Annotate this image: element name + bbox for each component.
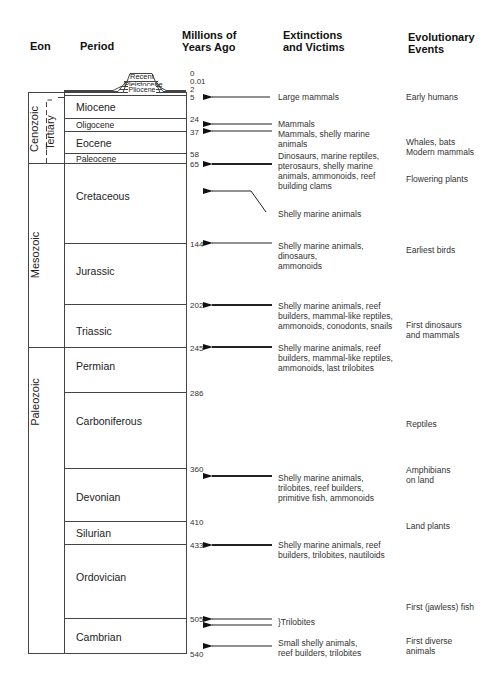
event-whales-bats: Whales, bats Modern mammals: [406, 137, 474, 157]
tick-202: 202: [190, 301, 203, 310]
tick-58: 58: [190, 150, 199, 159]
extinction-245: Shelly marine animals, reef builders, ma…: [278, 343, 393, 373]
event-amphibians: Amphibians on land: [406, 465, 450, 485]
event-first-fish: First (jawless) fish: [406, 602, 474, 612]
tick-286: 286: [190, 389, 203, 398]
eon-paleozoic: Paleozoic: [29, 374, 43, 430]
extinction-360: Shelly marine animals, trilobites, reef …: [278, 473, 374, 503]
period-jurassic: Jurassic: [76, 265, 115, 277]
period-carboniferous: Carboniferous: [76, 415, 142, 427]
period-devonian: Devonian: [76, 491, 120, 503]
sub-eon-tertiary: Tertiary: [44, 111, 57, 155]
period-cretaceous: Cretaceous: [76, 190, 130, 202]
extinction-505-trilobites: }Trilobites: [278, 617, 315, 627]
event-first-diverse-animals: First diverse animals: [406, 636, 452, 656]
extinction-kt: Dinosaurs, marine reptiles, pterosaurs, …: [278, 151, 379, 191]
event-reptiles: Reptiles: [406, 419, 437, 429]
period-ordovician: Ordovician: [76, 571, 126, 583]
tick-245: 245: [190, 344, 203, 353]
eon-cenozoic: Cenozoic: [28, 104, 42, 154]
tick-540: 540: [190, 650, 203, 659]
extinction-433: Shelly marine animals, reef builders, tr…: [278, 540, 385, 560]
tick-65: 65: [190, 160, 199, 169]
extinction-mammals-24: Mammals: [278, 119, 315, 129]
period-paleocene: Paleocene: [76, 154, 116, 164]
event-first-dinosaurs: First dinosaurs and mammals: [406, 320, 462, 340]
period-triassic: Triassic: [76, 325, 112, 337]
extinction-202: Shelly marine animals, reef builders, ma…: [278, 301, 393, 331]
extinction-144: Shelly marine animals, dinosaurs, ammono…: [278, 241, 364, 271]
period-silurian: Silurian: [76, 527, 111, 539]
tick-144: 144: [190, 240, 203, 249]
extinction-mammals-37: Mammals, shelly marine animals: [278, 129, 370, 149]
period-cambrian: Cambrian: [76, 631, 122, 643]
event-flowering-plants: Flowering plants: [406, 174, 468, 184]
period-eocene: Eocene: [76, 137, 112, 149]
tick-505: 505: [190, 615, 203, 624]
event-earliest-birds: Earliest birds: [406, 245, 455, 255]
tick-24: 24: [190, 115, 199, 124]
tick-5: 5: [190, 93, 194, 102]
tick-360: 360: [190, 465, 203, 474]
extinction-540: Small shelly animals, reef builders, tri…: [278, 638, 361, 658]
period-miocene: Miocene: [76, 101, 116, 113]
event-early-humans: Early humans: [406, 92, 458, 102]
eon-mesozoic: Mesozoic: [29, 229, 43, 281]
tick-410: 410: [190, 518, 203, 527]
event-land-plants: Land plants: [406, 521, 450, 531]
epoch-pliocene: Pliocene: [128, 86, 156, 93]
tick-433: 433: [190, 541, 203, 550]
tick-37: 37: [190, 128, 199, 137]
period-permian: Permian: [76, 360, 115, 372]
extinction-cretaceous-mid: Shelly marine animals: [278, 209, 361, 219]
extinction-large-mammals: Large mammals: [278, 92, 339, 102]
period-oligocene: Oligocene: [76, 120, 114, 130]
